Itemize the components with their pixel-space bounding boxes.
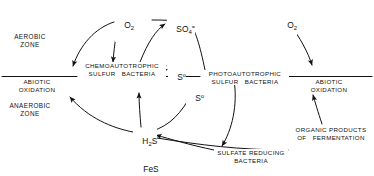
chemoautotrophic-sulfur-bacteria-label: CHEMOAUTOTROPHIC SULFUR BACTERIA — [78, 62, 166, 77]
abiotic-oxidation-right-label: ABIOTIC OXIDATION — [303, 78, 355, 93]
sulfate-formula: SO4= — [176, 24, 195, 34]
arrow-sulfate-to-sulfate-reducing — [222, 80, 235, 146]
hydrogen-sulfide-label: H2S — [133, 128, 157, 158]
arrow-o2-to-abiotic-left — [73, 22, 114, 66]
iron-sulfide-label: FeS — [134, 156, 159, 176]
photoautotrophic-sulfur-bacteria-label: PHOTOAUTOTROPHIC SULFUR BACTERIA — [201, 70, 289, 85]
oxygen-right-label: O2 — [278, 12, 297, 42]
arrow-h2s-to-abiotic-left — [70, 97, 133, 132]
anaerobic-zone-label: ANAEROBIC ZONE — [8, 102, 52, 118]
aerobic-zone-label: AEROBIC ZONE — [10, 33, 50, 49]
sulfate-label: SO4= — [167, 14, 195, 46]
oxygen-left-label: O2 — [115, 12, 134, 42]
arrow-organic-to-abiotic-right — [313, 95, 322, 124]
oxygen-left-formula: O2 — [124, 20, 134, 30]
elemental-sulfur-upper-label: So — [168, 62, 186, 91]
sulfur-cycle-diagram: AEROBIC ZONE ANAEROBIC ZONE O2 O2 SO4= S… — [0, 0, 374, 176]
arrow-chemo-to-sulfate — [140, 24, 165, 62]
hydrogen-sulfide-formula: H2S — [142, 136, 157, 146]
elemental-sulfur-lower-formula: So — [195, 93, 204, 103]
elemental-sulfur-lower-label: So — [186, 83, 204, 112]
oxygen-right-formula: O2 — [287, 20, 297, 30]
organic-products-of-fermentation-label: ORGANIC PRODUCTS OF FERMENTATION — [294, 126, 368, 141]
arrow-h2s-to-chemoautotrophic — [139, 93, 141, 127]
abiotic-oxidation-left-label: ABIOTIC OXIDATION — [11, 78, 63, 93]
sulfate-reducing-bacteria-label: SULFATE REDUCING BACTERIA — [214, 149, 288, 164]
elemental-sulfur-upper-formula: So — [177, 72, 186, 82]
iron-sulfide-formula: FeS — [143, 164, 158, 174]
